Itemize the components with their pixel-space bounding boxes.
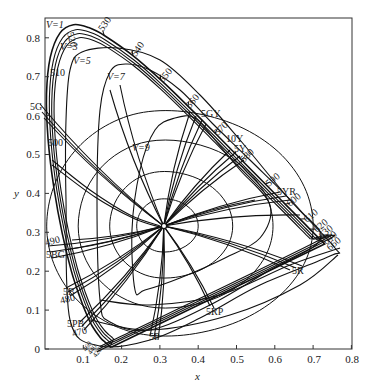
y-tick: 0.2 xyxy=(26,265,40,277)
hue-label-5GY: 5GY xyxy=(201,108,220,119)
value-label-3: V=3 xyxy=(60,41,78,52)
hue-label-5P: 5P xyxy=(149,331,160,342)
chromaticity-diagram: 0.1 0.2 0.3 0.4 0.5 0.6 0.7 0.8 0 0.1 0.… xyxy=(0,0,374,388)
wavelength-label: 500 xyxy=(48,137,63,148)
hue-label-10Y: 10Y xyxy=(226,133,243,144)
hue-label-5B: 5B xyxy=(63,286,75,297)
y-axis-label: y xyxy=(13,187,19,199)
y-tick: 0.7 xyxy=(26,70,40,82)
hue-label-5BG: 5BG xyxy=(46,249,65,260)
hue-label-5Y: 5Y xyxy=(234,143,246,154)
white-point-marker xyxy=(161,223,166,228)
y-tick: 0.5 xyxy=(26,148,40,160)
y-tick: 0.3 xyxy=(26,226,40,238)
wavelength-label: 490 xyxy=(44,233,61,248)
axis-ticks xyxy=(45,38,351,349)
hue-label-5G: 5G xyxy=(30,101,42,112)
constant-hue-line xyxy=(164,226,210,306)
y-tick: 0.1 xyxy=(26,304,40,316)
wavelength-label: 510 xyxy=(50,67,65,78)
y-tick: 0.8 xyxy=(26,32,40,44)
x-tick: 0.6 xyxy=(268,353,282,365)
constant-hue-line xyxy=(164,124,206,226)
x-tick-labels: 0.1 0.2 0.3 0.4 0.5 0.6 0.7 0.8 xyxy=(76,353,359,365)
value-label-9: V=9 xyxy=(132,142,150,153)
wavelength-label: 540 xyxy=(129,40,147,59)
x-tick: 0.7 xyxy=(307,353,321,365)
x-tick: 0.3 xyxy=(153,353,167,365)
value-label-1: V=1 xyxy=(46,19,64,30)
constant-hue-line xyxy=(120,85,164,226)
hue-label-5PB: 5PB xyxy=(67,318,85,329)
y-tick: 0 xyxy=(35,343,41,355)
hue-label-5R: 5R xyxy=(292,265,304,276)
x-tick: 0.8 xyxy=(345,353,359,365)
x-tick: 0.4 xyxy=(191,353,205,365)
wavelength-label: 530 xyxy=(96,15,114,34)
y-tick: 0.4 xyxy=(26,187,40,199)
x-axis-label: x xyxy=(194,370,200,382)
x-tick: 0.2 xyxy=(114,353,128,365)
hue-label-5RP: 5RP xyxy=(206,306,224,317)
constant-hue-line xyxy=(52,160,160,226)
hue-label-5YR: 5YR xyxy=(277,186,296,197)
x-tick: 0.1 xyxy=(76,353,90,365)
value-label-7: V=7 xyxy=(107,71,126,82)
y-tick-labels: 0 0.1 0.2 0.3 0.4 0.5 0.6 0.7 0.8 xyxy=(26,32,40,355)
value-label-5: V=5 xyxy=(73,55,91,66)
x-tick: 0.5 xyxy=(230,353,244,365)
